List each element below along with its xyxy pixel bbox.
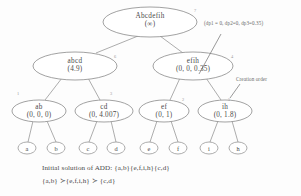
leaf-node-f[interactable] — [169, 142, 187, 154]
leaf-node-a[interactable] — [18, 142, 36, 154]
edge-ab-b — [47, 121, 56, 142]
leaf-node-i[interactable] — [200, 142, 218, 154]
leaf-node-b[interactable] — [47, 142, 65, 154]
edge-efih-ef — [170, 78, 180, 100]
node-root[interactable] — [103, 7, 197, 37]
node-abcd[interactable] — [33, 52, 117, 80]
edge-ef-f — [171, 121, 178, 142]
edge-ab-a — [28, 121, 33, 142]
edge-root-abcd — [96, 36, 138, 53]
creation-order-pointer — [230, 84, 240, 98]
leaf-node-e[interactable] — [140, 142, 158, 154]
creation-order-annotation: Creation order — [236, 76, 267, 82]
caption-line-1: Initial solution of ADD: {a,b}{e,f,i,h}{… — [42, 164, 170, 172]
edge-ef-e — [150, 121, 157, 142]
diagram-canvas: Abcdefih (∞) abcd (4.9) efih (0, 0, 0.35… — [0, 0, 301, 196]
node-ih[interactable] — [198, 100, 252, 122]
edge-abcd-cd — [88, 78, 100, 100]
leaf-node-h[interactable] — [229, 142, 247, 154]
edge-ih-i — [210, 121, 218, 142]
node-efih[interactable] — [153, 52, 233, 80]
node-ef[interactable] — [139, 100, 189, 122]
leaf-node-d[interactable] — [107, 142, 125, 154]
edge-efih-ih — [206, 78, 221, 100]
edge-cd-d — [111, 121, 116, 142]
edge-root-efih — [160, 36, 183, 53]
leaf-node-c[interactable] — [79, 142, 97, 154]
dp-values-annotation: (dp1 = 0, dp2=0, dp3=0.35) — [204, 20, 263, 26]
edge-cd-c — [89, 121, 97, 142]
edge-abcd-ab — [45, 78, 62, 100]
caption-line-2: {a,b} ≻{e,f,i,h} ≻ {c,d} — [42, 176, 115, 185]
node-ab[interactable] — [12, 100, 66, 122]
node-cd[interactable] — [75, 100, 133, 122]
edge-ih-h — [232, 121, 238, 142]
